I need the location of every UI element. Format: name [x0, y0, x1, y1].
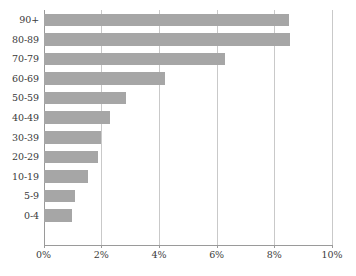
bar-20-29: [44, 151, 99, 164]
bar-90plus: [44, 14, 289, 27]
y-label-10-19: 10-19: [12, 167, 39, 187]
bar-row: [44, 128, 333, 148]
y-label-80-89: 80-89: [12, 30, 39, 50]
x-label-0: 0%: [36, 249, 51, 260]
bar-50-59: [44, 92, 126, 105]
x-label-6: 6%: [209, 249, 224, 260]
y-label-40-49: 40-49: [12, 108, 39, 128]
tick-mark-10: [332, 245, 333, 248]
bar-chart: 90+ 80-89 70-79 60-69 50-59 40-49 30-39 …: [0, 0, 356, 276]
bar-row: [44, 10, 333, 30]
x-label-10: 10%: [322, 249, 343, 260]
tick-mark-4: [159, 245, 160, 248]
bar-row: [44, 108, 333, 128]
bar-row: [44, 88, 333, 108]
bar-row: [44, 186, 333, 206]
bar-70-79: [44, 53, 226, 66]
x-label-8: 8%: [267, 249, 282, 260]
tick-mark-8: [274, 245, 275, 248]
gridline-10: [332, 10, 333, 245]
x-label-2: 2%: [94, 249, 109, 260]
y-label-5-9: 5-9: [24, 186, 39, 206]
bar-60-69: [44, 72, 165, 85]
y-label-90plus: 90+: [19, 10, 39, 30]
y-label-70-79: 70-79: [12, 49, 39, 69]
x-label-4: 4%: [151, 249, 166, 260]
bar-40-49: [44, 111, 110, 124]
plot-area: [44, 10, 333, 245]
y-label-30-39: 30-39: [12, 128, 39, 148]
y-label-60-69: 60-69: [12, 69, 39, 89]
bar-row: [44, 167, 333, 187]
tick-mark-6: [217, 245, 218, 248]
bar-5-9: [44, 190, 76, 203]
y-label-20-29: 20-29: [12, 147, 39, 167]
y-label-0-4: 0-4: [24, 206, 39, 226]
x-axis-labels: 0% 2% 4% 6% 8% 10%: [0, 249, 356, 269]
bar-row: [44, 49, 333, 69]
bar-80-89: [44, 33, 291, 46]
bars-layer: [44, 10, 333, 245]
x-axis-line: [44, 245, 333, 246]
bar-row: [44, 206, 333, 226]
tick-mark-0: [44, 245, 45, 248]
bar-row: [44, 30, 333, 50]
y-label-50-59: 50-59: [12, 88, 39, 108]
bar-0-4: [44, 209, 73, 222]
tick-mark-2: [101, 245, 102, 248]
bar-30-39: [44, 131, 102, 144]
bar-row: [44, 147, 333, 167]
y-axis-labels: 90+ 80-89 70-79 60-69 50-59 40-49 30-39 …: [0, 10, 39, 245]
bar-row: [44, 69, 333, 89]
bar-10-19: [44, 170, 89, 183]
